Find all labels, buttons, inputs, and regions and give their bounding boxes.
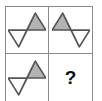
bowtie-figure-bottom-left xyxy=(8,59,46,97)
matrix-cell-top-right[interactable] xyxy=(49,7,92,54)
question-mark-placeholder: ? xyxy=(65,68,77,87)
matrix-cell-bottom-right[interactable]: ? xyxy=(49,54,92,101)
matrix-grid: ? xyxy=(5,6,93,101)
bowtie-figure-top-left xyxy=(8,11,46,49)
matrix-cell-bottom-left[interactable] xyxy=(6,54,49,101)
matrix-cell-top-left[interactable] xyxy=(6,7,49,54)
bowtie-figure-top-right xyxy=(52,11,90,49)
puzzle-root: ? xyxy=(0,0,102,101)
